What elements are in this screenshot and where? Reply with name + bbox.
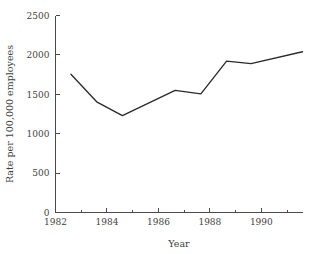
y-tick-label-1000: 1000 — [27, 129, 50, 139]
x-tick-label-1984: 1984 — [96, 217, 119, 227]
y-tick-label-2000: 2000 — [27, 50, 50, 60]
x-tick-label-1988: 1988 — [198, 217, 221, 227]
chart-canvas: 05001000150020002500 1982198419861988199… — [0, 0, 315, 254]
x-tick-label-1986: 1986 — [147, 217, 170, 227]
x-tick-label-1982: 1982 — [44, 217, 67, 227]
data-series-group — [71, 52, 303, 116]
y-axis-tick-labels: 05001000150020002500 — [27, 11, 50, 218]
line-chart: 05001000150020002500 1982198419861988199… — [0, 0, 315, 254]
x-axis-ticks — [56, 208, 288, 213]
y-axis-title: Rate per 100,000 employees — [4, 45, 15, 183]
x-axis-title: Year — [167, 238, 190, 249]
y-tick-label-2500: 2500 — [27, 11, 50, 21]
data-line-rate — [71, 52, 303, 116]
x-axis-tick-labels: 19821984198619881990 — [44, 217, 273, 227]
plot-axes — [56, 16, 303, 213]
y-tick-label-500: 500 — [32, 168, 49, 178]
x-tick-label-1990: 1990 — [250, 217, 273, 227]
y-axis-ticks — [56, 16, 60, 213]
y-tick-label-1500: 1500 — [27, 90, 50, 100]
